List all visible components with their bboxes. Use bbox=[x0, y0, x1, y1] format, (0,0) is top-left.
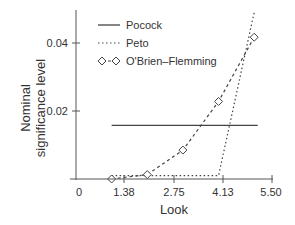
y-tick-label-0.02: 0.02 bbox=[47, 105, 68, 117]
chart: 0.04 0.02 0 1.38 2.75 4.13 5.50 Look Nom… bbox=[0, 0, 295, 225]
y-axis-label-line2: significance level bbox=[33, 59, 48, 157]
x-tick-label-0: 0 bbox=[76, 186, 82, 198]
x-axis-label: Look bbox=[160, 202, 189, 217]
y-tick-label-0.04: 0.04 bbox=[47, 37, 68, 49]
diamond-marker-icon bbox=[98, 57, 106, 65]
diamond-marker-icon bbox=[112, 57, 120, 65]
x-tick-label-5.50: 5.50 bbox=[260, 186, 281, 198]
legend: Pocock Peto O'Brien–Flemming bbox=[98, 19, 217, 67]
diamond-marker-icon bbox=[250, 33, 258, 41]
x-tick-label-2.75: 2.75 bbox=[163, 186, 184, 198]
x-tick-label-4.13: 4.13 bbox=[212, 186, 233, 198]
diamond-marker-icon bbox=[179, 146, 187, 154]
x-tick-label-1.38: 1.38 bbox=[113, 186, 134, 198]
legend-label-obrien-flemming: O'Brien–Flemming bbox=[126, 55, 217, 67]
y-axis-label-line1: Nominal bbox=[18, 84, 33, 132]
diamond-marker-icon bbox=[215, 97, 223, 105]
legend-label-pocock: Pocock bbox=[126, 19, 163, 31]
legend-label-peto: Peto bbox=[126, 37, 149, 49]
diamond-marker-icon bbox=[143, 171, 151, 179]
